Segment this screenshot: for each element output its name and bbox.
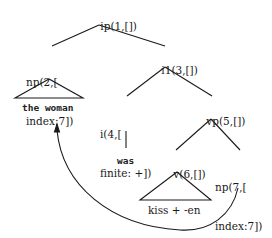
syntax-tree-diagram: ip(1,[]) np(2,[ index:7]) the woman i1(3…: [0, 0, 272, 238]
leaf-the-woman: the woman: [22, 101, 73, 114]
node-v6: v(6,[]): [160, 155, 206, 194]
node-np7-label-line2: index:7]): [215, 220, 262, 233]
node-i1-3: i1(3,[]): [148, 51, 198, 90]
node-v6-label: v(6,[]): [173, 168, 205, 180]
node-vp5-label: vp(5,[]): [206, 115, 245, 127]
node-vp5: vp(5,[]): [193, 102, 245, 141]
node-ip1: ip(1,[]): [87, 7, 137, 46]
leaf-was: was: [117, 154, 134, 167]
node-np2-label-line2: index:7]): [26, 115, 73, 128]
node-ip1-label: ip(1,[]): [100, 20, 136, 32]
node-i4-label-line1: i(4,[: [100, 128, 151, 141]
node-i4-label-line2: finite: +]): [100, 167, 151, 180]
leaf-kiss-en: kiss + -en: [148, 204, 201, 217]
node-np2-label-line1: np(2,[: [26, 76, 73, 89]
node-i1-3-label: i1(3,[]): [161, 64, 197, 76]
node-np7: np(7,[ index:7]): [215, 155, 262, 238]
node-np7-label-line1: np(7,[: [215, 181, 262, 194]
